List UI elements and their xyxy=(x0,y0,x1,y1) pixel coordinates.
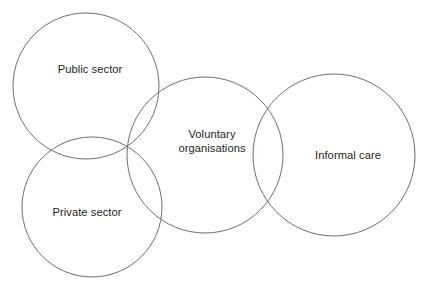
circle-voluntary-organisations xyxy=(127,77,283,233)
circle-informal-care xyxy=(253,74,415,236)
venn-circles-canvas xyxy=(0,0,428,293)
venn-diagram: Public sector Private sector Voluntary o… xyxy=(0,0,428,293)
circle-private-sector xyxy=(22,137,162,277)
